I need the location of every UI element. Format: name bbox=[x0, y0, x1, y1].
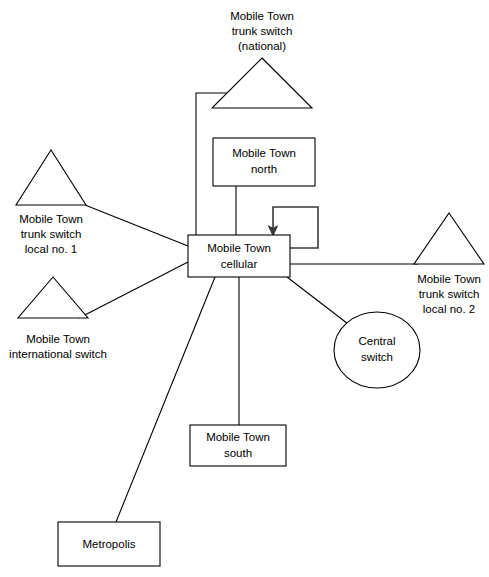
label-international-line1: Mobile Town bbox=[26, 333, 90, 345]
label-mobile-south-line2: south bbox=[224, 447, 252, 459]
triangle-shape-international bbox=[18, 277, 88, 318]
ellipse-shape-central-switch bbox=[334, 312, 420, 388]
label-trunk-local-1-line2: trunk switch bbox=[21, 228, 82, 240]
node-mobile-town-north[interactable]: Mobile Town north bbox=[213, 138, 315, 186]
label-mobile-cellular-line2: cellular bbox=[221, 258, 258, 270]
label-central-switch-line1: Central bbox=[358, 335, 395, 347]
rect-shape-mobile-north bbox=[213, 138, 315, 186]
triangle-shape-trunk-local-1 bbox=[16, 150, 86, 205]
node-mobile-town-cellular[interactable]: Mobile Town cellular bbox=[188, 235, 290, 277]
triangle-shape-trunk-national bbox=[212, 58, 312, 108]
network-diagram-svg: Mobile Town trunk switch (national) Mobi… bbox=[0, 0, 489, 577]
label-trunk-local-2-line3: local no. 2 bbox=[423, 303, 475, 315]
label-mobile-north-line1: Mobile Town bbox=[232, 147, 296, 159]
node-trunk-switch-local-2[interactable]: Mobile Town trunk switch local no. 2 bbox=[414, 213, 484, 315]
node-trunk-switch-local-1[interactable]: Mobile Town trunk switch local no. 1 bbox=[16, 150, 86, 255]
label-trunk-national-line1: Mobile Town bbox=[230, 10, 294, 22]
link-cellular-metropolis[interactable] bbox=[116, 277, 215, 522]
network-diagram-canvas: Mobile Town trunk switch (national) Mobi… bbox=[0, 0, 489, 577]
label-mobile-cellular-line1: Mobile Town bbox=[207, 242, 271, 254]
node-mobile-town-south[interactable]: Mobile Town south bbox=[190, 425, 286, 466]
node-central-switch[interactable]: Central switch bbox=[334, 312, 420, 388]
label-central-switch-line2: switch bbox=[361, 351, 393, 363]
node-trunk-switch-national[interactable]: Mobile Town trunk switch (national) bbox=[212, 10, 312, 108]
label-metropolis: Metropolis bbox=[82, 538, 135, 550]
link-cellular-central-switch[interactable] bbox=[287, 277, 352, 327]
label-trunk-local-1-line3: local no. 1 bbox=[25, 243, 77, 255]
label-trunk-local-2-line2: trunk switch bbox=[419, 288, 480, 300]
label-international-line2: international switch bbox=[9, 348, 107, 360]
link-cellular-trunk-local-1[interactable] bbox=[85, 205, 188, 246]
node-metropolis[interactable]: Metropolis bbox=[58, 522, 160, 566]
node-international-switch[interactable]: Mobile Town international switch bbox=[9, 277, 107, 360]
label-trunk-national-line2: trunk switch bbox=[232, 25, 293, 37]
triangle-shape-trunk-local-2 bbox=[414, 213, 484, 264]
label-trunk-national-line3: (national) bbox=[238, 40, 286, 52]
label-trunk-local-2-line1: Mobile Town bbox=[417, 273, 481, 285]
label-mobile-south-line1: Mobile Town bbox=[206, 431, 270, 443]
label-mobile-north-line2: north bbox=[251, 163, 277, 175]
link-cellular-international[interactable] bbox=[79, 262, 188, 318]
label-trunk-local-1-line1: Mobile Town bbox=[19, 213, 83, 225]
